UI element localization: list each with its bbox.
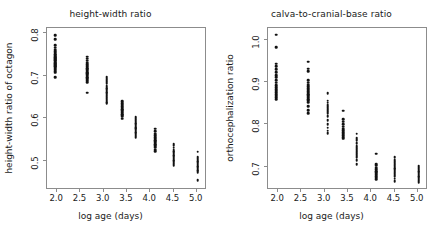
x-tick-label: 2.0 (49, 193, 63, 203)
y-tick-mark (264, 39, 267, 40)
data-point (135, 136, 138, 139)
y-tick-mark (43, 160, 46, 161)
data-point (86, 81, 89, 84)
x-axis-tick-labels: 2.02.53.03.54.04.55.0 (46, 193, 206, 205)
panel-title: height-width ratio (0, 9, 221, 19)
y-tick-label: 0.7 (251, 162, 261, 176)
x-tick-label: 5.0 (410, 193, 424, 203)
x-tick-mark (149, 189, 150, 192)
data-point (105, 102, 108, 105)
data-point (356, 139, 359, 142)
y-axis-title: height-width ratio of octagon (4, 27, 18, 189)
y-tick-label: 0.7 (30, 71, 40, 85)
data-point (121, 118, 124, 121)
plot-area (267, 27, 427, 189)
data-point (326, 123, 329, 126)
data-point (307, 101, 310, 104)
y-axis-ticks (263, 27, 267, 189)
data-point (342, 110, 345, 113)
data-point (356, 159, 359, 162)
x-tick-label: 3.0 (317, 193, 331, 203)
y-tick-mark (264, 81, 267, 82)
x-tick-mark (370, 189, 371, 192)
data-point (86, 92, 89, 95)
x-tick-label: 3.5 (119, 193, 133, 203)
x-tick-label: 3.0 (96, 193, 110, 203)
x-tick-label: 4.0 (142, 193, 156, 203)
y-tick-label: 1.0 (251, 35, 261, 49)
data-point (307, 70, 310, 73)
x-tick-label: 4.5 (166, 193, 180, 203)
x-tick-mark (417, 189, 418, 192)
y-tick-mark (43, 117, 46, 118)
x-tick-mark (196, 189, 197, 192)
figure-canvas: height-width ratio 0.50.60.70.8 2.02.53.… (0, 0, 442, 244)
x-tick-label: 4.0 (363, 193, 377, 203)
panel-calva-to-cranial-base-ratio: calva-to-cranial-base ratio 0.70.80.91.0… (221, 0, 442, 244)
y-tick-mark (264, 166, 267, 167)
data-point (307, 105, 310, 108)
y-tick-mark (264, 123, 267, 124)
x-tick-label: 5.0 (189, 193, 203, 203)
x-tick-mark (56, 189, 57, 192)
x-axis-tick-labels: 2.02.53.03.54.04.55.0 (267, 193, 427, 205)
panel-height-width-ratio: height-width ratio 0.50.60.70.8 2.02.53.… (0, 0, 221, 244)
data-point (356, 132, 359, 135)
panel-title: calva-to-cranial-base ratio (221, 9, 442, 19)
x-tick-label: 2.0 (270, 193, 284, 203)
x-axis-title: log age (days) (0, 211, 221, 221)
data-point (375, 152, 378, 155)
data-point (275, 98, 278, 101)
data-point (54, 76, 57, 79)
y-tick-label: 0.6 (30, 114, 40, 128)
data-point (307, 112, 310, 115)
data-point (307, 61, 310, 64)
x-tick-label: 2.5 (73, 193, 87, 203)
y-axis-tick-labels: 0.50.60.70.8 (28, 27, 42, 189)
data-point (172, 164, 175, 167)
x-tick-mark (300, 189, 301, 192)
data-point (196, 150, 199, 153)
x-tick-mark (394, 189, 395, 192)
y-axis-tick-labels: 0.70.80.91.0 (249, 27, 263, 189)
data-point (54, 71, 57, 74)
data-point (196, 179, 199, 182)
x-tick-label: 2.5 (294, 193, 308, 203)
y-axis-title: orthocephalization ratio (225, 27, 239, 189)
y-tick-label: 0.5 (30, 156, 40, 170)
data-point (342, 138, 345, 141)
plot-area (46, 27, 206, 189)
data-point (154, 150, 157, 153)
x-tick-label: 3.5 (340, 193, 354, 203)
x-tick-mark (173, 189, 174, 192)
data-point (275, 33, 278, 36)
x-tick-mark (126, 189, 127, 192)
y-tick-label: 0.8 (30, 28, 40, 42)
x-tick-label: 4.5 (387, 193, 401, 203)
y-tick-mark (43, 75, 46, 76)
y-axis-ticks (42, 27, 46, 189)
x-tick-mark (79, 189, 80, 192)
data-point (326, 132, 329, 135)
data-point (393, 180, 396, 183)
data-point (275, 46, 278, 49)
data-point (326, 115, 329, 118)
data-point (356, 163, 359, 166)
y-tick-label: 0.8 (251, 120, 261, 134)
x-tick-mark (347, 189, 348, 192)
data-point (307, 109, 310, 112)
data-point (326, 92, 329, 95)
data-point (417, 182, 420, 185)
x-axis-title: log age (days) (221, 211, 442, 221)
data-point (326, 119, 329, 122)
y-tick-label: 0.9 (251, 77, 261, 91)
data-point (54, 38, 57, 41)
x-tick-mark (103, 189, 104, 192)
data-point (375, 178, 378, 181)
data-point (54, 34, 57, 37)
x-tick-mark (324, 189, 325, 192)
y-tick-mark (43, 32, 46, 33)
data-point (196, 171, 199, 174)
x-tick-mark (277, 189, 278, 192)
